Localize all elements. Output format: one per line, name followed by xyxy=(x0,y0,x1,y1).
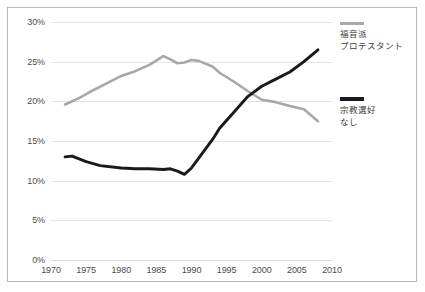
legend-label-line2: なし xyxy=(340,117,416,129)
x-tick-label: 2005 xyxy=(287,265,307,275)
y-tick-label: 10% xyxy=(27,176,45,186)
legend-swatch-black-icon xyxy=(340,97,364,101)
y-tick-label: 15% xyxy=(27,136,45,146)
y-tick-label: 5% xyxy=(32,215,45,225)
chart-legend: 福音派 プロテスタント 宗教選好 なし xyxy=(340,22,416,128)
legend-entry-no-religious-preference: 宗教選好 なし xyxy=(340,97,416,128)
x-tick-label: 2000 xyxy=(252,265,272,275)
y-tick-label: 25% xyxy=(27,57,45,67)
legend-entry-evangelical-protestant: 福音派 プロテスタント xyxy=(340,22,416,52)
x-tick-label: 1990 xyxy=(182,265,202,275)
y-tick-label: 20% xyxy=(27,96,45,106)
x-tick-label: 1995 xyxy=(217,265,237,275)
legend-swatch-gray-icon xyxy=(340,22,364,25)
x-tick-label: 2010 xyxy=(322,265,342,275)
y-tick-label: 30% xyxy=(27,17,45,27)
plot-area: 30% 25% 20% 15% 10% 5% 0% 1970 1975 1980… xyxy=(51,22,332,260)
series-line-evangelical-protestant xyxy=(65,56,318,121)
chart-figure: 30% 25% 20% 15% 10% 5% 0% 1970 1975 1980… xyxy=(7,7,417,282)
x-tick-label: 1970 xyxy=(41,265,61,275)
legend-label-line2: プロテスタント xyxy=(340,41,416,53)
x-tick-label: 1975 xyxy=(76,265,96,275)
y-tick-label: 0% xyxy=(32,255,45,265)
legend-label-line1: 福音派 xyxy=(340,29,416,41)
x-tick-label: 1985 xyxy=(147,265,167,275)
series-line-no-religious-preference xyxy=(65,50,318,175)
series-canvas xyxy=(51,22,332,260)
gridline-0: 0% xyxy=(51,260,332,261)
legend-label-line1: 宗教選好 xyxy=(340,105,416,117)
x-tick-label: 1980 xyxy=(111,265,131,275)
